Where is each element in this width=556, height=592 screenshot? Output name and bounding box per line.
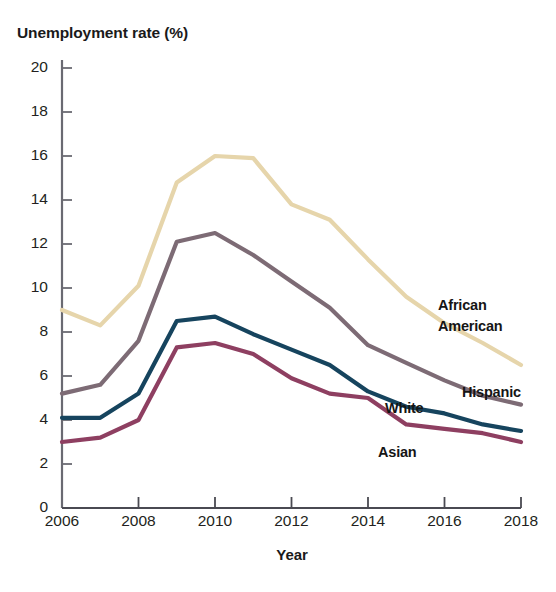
x-tick-label: 2016	[415, 512, 475, 530]
y-tick-label: 6	[18, 366, 48, 384]
y-tick-label: 8	[18, 322, 48, 340]
y-tick-label: 20	[18, 58, 48, 76]
y-tick-label: 14	[18, 190, 48, 208]
x-tick-label: 2006	[32, 512, 92, 530]
y-tick-label: 4	[18, 410, 48, 428]
x-tick-label: 2018	[491, 512, 551, 530]
chart-plot-area	[0, 0, 556, 592]
x-axis-ticks	[139, 497, 522, 508]
series-label-white: White	[385, 400, 423, 416]
x-tick-label: 2014	[338, 512, 398, 530]
y-tick-label: 12	[18, 234, 48, 252]
series-label-african-american: African	[438, 297, 487, 313]
y-tick-label: 16	[18, 146, 48, 164]
chart-figure: Unemployment rate (%) 02468101214161820 …	[0, 0, 556, 592]
axis-lines	[62, 60, 521, 508]
series-line-asian	[62, 343, 521, 442]
series-label-hispanic: Hispanic	[462, 384, 521, 400]
y-tick-label: 18	[18, 102, 48, 120]
series-label-african-american: American	[438, 318, 503, 334]
y-tick-label: 10	[18, 278, 48, 296]
x-axis-title-text: Year	[276, 546, 307, 563]
series-label-asian: Asian	[378, 444, 417, 460]
x-axis-title: Year	[0, 546, 556, 563]
x-tick-label: 2008	[109, 512, 169, 530]
x-tick-label: 2012	[262, 512, 322, 530]
y-tick-label: 2	[18, 454, 48, 472]
figure-caption	[0, 578, 556, 587]
y-axis-ticks	[62, 68, 72, 464]
x-tick-label: 2010	[185, 512, 245, 530]
